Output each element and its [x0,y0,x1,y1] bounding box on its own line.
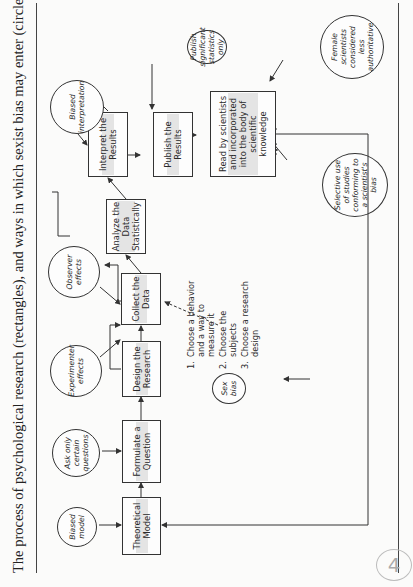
figure-page: The process of psychological research (r… [0,0,413,587]
page-number: 4 [388,553,401,577]
main-flow-lines [0,0,413,587]
page-number-stamp: 4 [376,549,412,581]
